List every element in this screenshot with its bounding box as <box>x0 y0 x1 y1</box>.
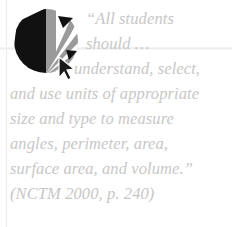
quote-line-6: angles, perimeter, area, <box>10 135 168 153</box>
quote-line-5: size and type to measure <box>10 110 174 128</box>
pull-quote-graphic: “All students should … understand, selec… <box>0 0 232 227</box>
quote-line-4: and use units of appropriate <box>10 85 199 103</box>
quote-line-7: surface area, and volume.” <box>10 160 193 178</box>
quote-block: “All students should … understand, selec… <box>0 0 232 227</box>
quote-citation: (NCTM 2000, p. 240) <box>10 185 154 203</box>
quote-line-1: “All students <box>86 10 174 28</box>
quote-line-3: understand, select, <box>74 60 200 78</box>
quote-line-2: should … <box>86 35 150 53</box>
